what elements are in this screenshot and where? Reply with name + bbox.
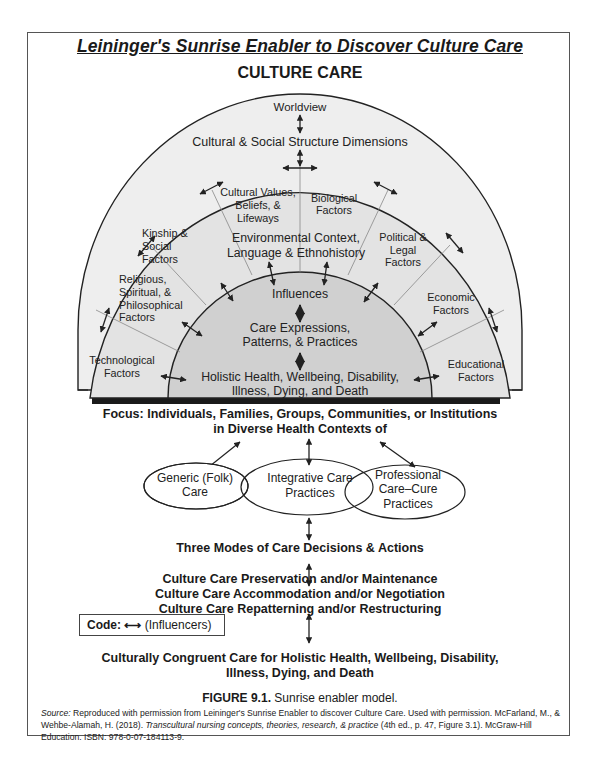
svg-text:Care: Care bbox=[182, 485, 208, 499]
sunrise-shadow bbox=[92, 398, 500, 404]
svg-text:Factors: Factors bbox=[316, 204, 353, 216]
book-title: Transcultural nursing concepts, theories… bbox=[145, 720, 378, 730]
svg-text:Care Expressions,: Care Expressions, bbox=[250, 321, 350, 335]
svg-text:Practices: Practices bbox=[383, 497, 432, 511]
svg-text:Economic: Economic bbox=[427, 291, 475, 303]
outcome-line-1: Culturally Congruent Care for Holistic H… bbox=[0, 651, 600, 666]
source-citation: Source: Reproduced with permission from … bbox=[41, 707, 561, 743]
svg-text:Political &: Political & bbox=[379, 231, 427, 243]
svg-text:Lifeways: Lifeways bbox=[237, 212, 280, 224]
svg-text:Factors: Factors bbox=[119, 311, 156, 323]
svg-text:Integrative Care: Integrative Care bbox=[267, 471, 353, 485]
care-expressions-label: Care Expressions, Patterns, & Practices bbox=[243, 321, 358, 349]
svg-text:Kinship &: Kinship & bbox=[142, 227, 188, 239]
svg-text:Care–Cure: Care–Cure bbox=[379, 482, 438, 496]
svg-text:Factors: Factors bbox=[433, 304, 470, 316]
integrative-care-label: Integrative Care Practices bbox=[267, 471, 353, 500]
svg-text:Religious,: Religious, bbox=[119, 273, 166, 285]
svg-text:Technological: Technological bbox=[89, 354, 154, 366]
figure-description: Sunrise enabler model. bbox=[271, 691, 398, 705]
double-arrow-icon: ⟷ bbox=[124, 618, 141, 632]
svg-text:Patterns, & Practices: Patterns, & Practices bbox=[243, 335, 358, 349]
source-label: Source: bbox=[41, 708, 71, 718]
svg-text:Environmental Context,: Environmental Context, bbox=[232, 231, 360, 245]
figure-number: FIGURE 9.1. bbox=[202, 691, 271, 705]
svg-text:Factors: Factors bbox=[458, 371, 495, 383]
svg-text:Illness, Dying, and Death: Illness, Dying, and Death bbox=[232, 384, 369, 398]
focus-line-1: Focus: Individuals, Families, Groups, Co… bbox=[0, 407, 600, 422]
svg-text:Practices: Practices bbox=[285, 486, 334, 500]
outcome-line-2: Illness, Dying, and Death bbox=[0, 666, 600, 681]
code-legend-box: Code: ⟷ (Influencers) bbox=[79, 614, 225, 636]
svg-text:Holistic Health, Wellbeing, Di: Holistic Health, Wellbeing, Disability, bbox=[201, 370, 399, 384]
svg-text:Educational: Educational bbox=[448, 358, 504, 370]
svg-text:Biological: Biological bbox=[311, 192, 357, 204]
factor-economic: Economic Factors bbox=[427, 291, 475, 316]
code-label: Code: bbox=[87, 618, 121, 632]
three-modes-heading: Three Modes of Care Decisions & Actions bbox=[0, 541, 600, 556]
svg-text:Factors: Factors bbox=[142, 253, 179, 265]
code-meaning: (Influencers) bbox=[145, 618, 212, 632]
svg-text:Cultural Values,: Cultural Values, bbox=[220, 186, 295, 198]
svg-text:Professional: Professional bbox=[375, 468, 441, 482]
svg-text:Spiritual, &: Spiritual, & bbox=[119, 286, 172, 298]
worldview-label: Worldview bbox=[274, 101, 328, 113]
mode-preservation: Culture Care Preservation and/or Mainten… bbox=[0, 572, 600, 587]
professional-care-label: Professional Care–Cure Practices bbox=[375, 468, 441, 511]
sunrise-diagram: Worldview Cultural & Social Structure Di… bbox=[0, 0, 600, 760]
svg-text:Factors: Factors bbox=[385, 256, 422, 268]
svg-text:Factors: Factors bbox=[104, 367, 141, 379]
svg-text:Language & Ethnohistory: Language & Ethnohistory bbox=[227, 246, 366, 260]
svg-text:Generic (Folk): Generic (Folk) bbox=[157, 471, 233, 485]
mode-accommodation: Culture Care Accommodation and/or Negoti… bbox=[0, 587, 600, 602]
svg-text:Philosophical: Philosophical bbox=[119, 299, 183, 311]
focus-line-2: in Diverse Health Contexts of bbox=[0, 422, 600, 437]
svg-text:Beliefs, &: Beliefs, & bbox=[235, 199, 281, 211]
influences-label: Influences bbox=[272, 287, 328, 301]
figure-caption: FIGURE 9.1. Sunrise enabler model. bbox=[0, 691, 600, 705]
cultural-social-structure-label: Cultural & Social Structure Dimensions bbox=[192, 135, 407, 149]
svg-text:Social: Social bbox=[142, 240, 171, 252]
factor-biological: Biological Factors bbox=[311, 192, 357, 216]
environmental-context-label: Environmental Context, Language & Ethnoh… bbox=[227, 231, 366, 260]
svg-text:Legal: Legal bbox=[390, 244, 416, 256]
